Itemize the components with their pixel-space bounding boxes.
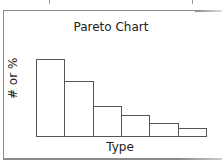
bar-4 [121, 115, 150, 137]
frame-edge-bottom [3, 158, 222, 160]
bar-1 [36, 59, 65, 137]
y-axis-label: # or % [6, 59, 20, 99]
bar-3 [93, 106, 122, 137]
cropped-top-edge [0, 0, 222, 4]
x-axis-label: Type [0, 140, 222, 154]
frame-edge [195, 10, 222, 12]
bar-2 [64, 81, 94, 137]
x-axis-baseline [36, 136, 206, 137]
chart-title: Pareto Chart [0, 20, 222, 34]
plot-area [36, 50, 206, 137]
bar-5 [149, 123, 179, 137]
